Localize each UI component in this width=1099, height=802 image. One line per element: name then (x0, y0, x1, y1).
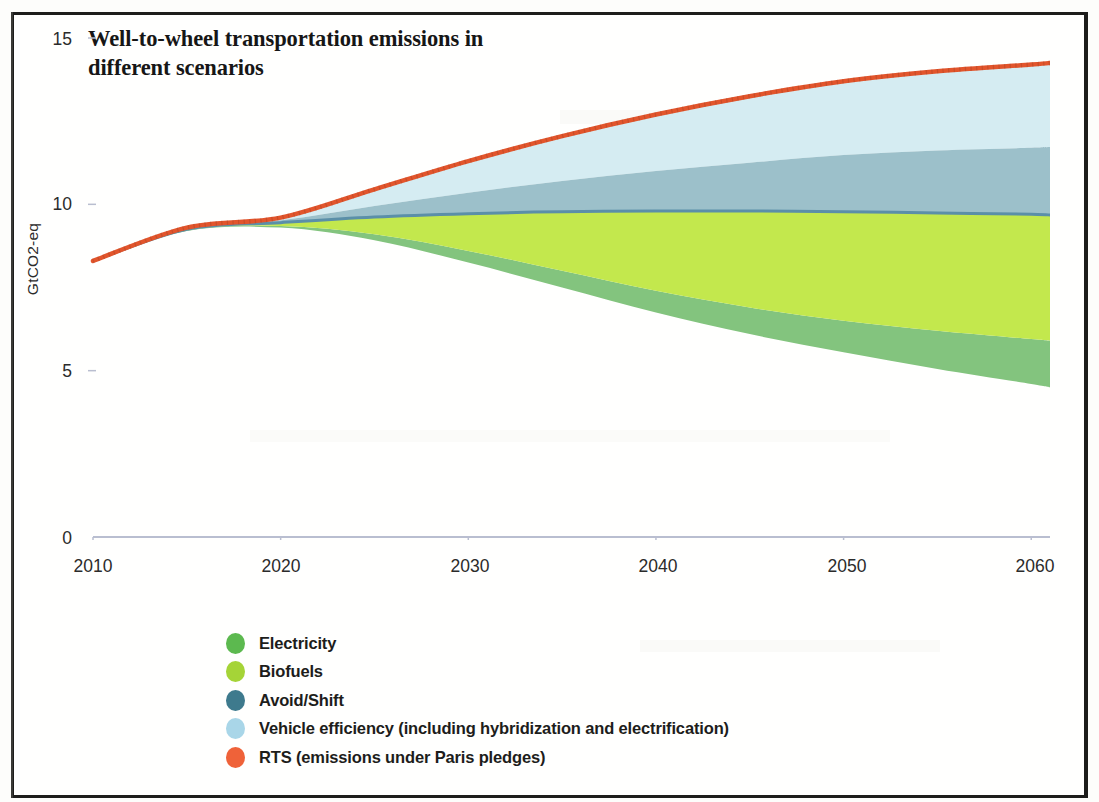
x-tick-2040: 2040 (613, 556, 703, 577)
legend-item-rts[interactable]: RTS (emissions under Paris pledges) (226, 743, 1046, 772)
legend-swatch-icon-biofuels (226, 661, 245, 682)
legend-swatch-icon-electricity (226, 633, 245, 654)
x-axis-labels: 2010 2020 2030 2040 2050 2060 (0, 556, 1099, 586)
y-axis-labels: 15 10 5 0 (26, 0, 72, 802)
x-tick-2050: 2050 (802, 556, 892, 577)
emissions-area-chart (88, 30, 1050, 540)
legend-item-avoid-shift[interactable]: Avoid/Shift (226, 686, 1046, 715)
plot-area (88, 30, 1050, 540)
legend-item-electricity[interactable]: Electricity (226, 629, 1046, 658)
x-tick-2060: 2060 (990, 556, 1080, 577)
legend-swatch-icon-vehicle-efficiency (226, 718, 245, 739)
stacked-bands (93, 63, 1050, 387)
legend-swatch-icon-avoid-shift (226, 690, 245, 711)
y-tick-0: 0 (32, 528, 72, 549)
x-tick-2030: 2030 (425, 556, 515, 577)
x-tick-2020: 2020 (236, 556, 326, 577)
chart-legend: Electricity Biofuels Avoid/Shift Vehicle… (226, 629, 1046, 772)
x-tick-2010: 2010 (48, 556, 138, 577)
legend-item-vehicle-efficiency[interactable]: Vehicle efficiency (including hybridizat… (226, 715, 1046, 744)
legend-label-vehicle-efficiency: Vehicle efficiency (including hybridizat… (259, 719, 729, 738)
legend-swatch-icon-rts (226, 747, 245, 768)
legend-item-biofuels[interactable]: Biofuels (226, 658, 1046, 687)
figure-page: Well-to-wheel transportation emissions i… (0, 0, 1099, 802)
legend-label-rts: RTS (emissions under Paris pledges) (259, 748, 545, 767)
legend-label-biofuels: Biofuels (259, 662, 323, 681)
legend-label-electricity: Electricity (259, 634, 336, 653)
y-axis-title: GtCO2-eq (24, 199, 42, 319)
legend-label-avoid-shift: Avoid/Shift (259, 691, 344, 710)
y-tick-5: 5 (32, 361, 72, 382)
y-tick-15: 15 (32, 29, 72, 50)
